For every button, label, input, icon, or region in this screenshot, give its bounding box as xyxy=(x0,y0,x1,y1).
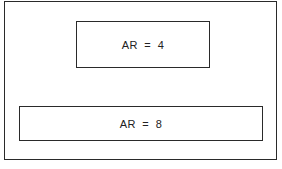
rectangle-ar-4: AR = 4 xyxy=(76,21,210,68)
rectangle-ar-8: AR = 8 xyxy=(19,106,263,141)
rectangle-label: AR = 8 xyxy=(120,118,162,130)
rectangle-label: AR = 4 xyxy=(122,39,164,51)
